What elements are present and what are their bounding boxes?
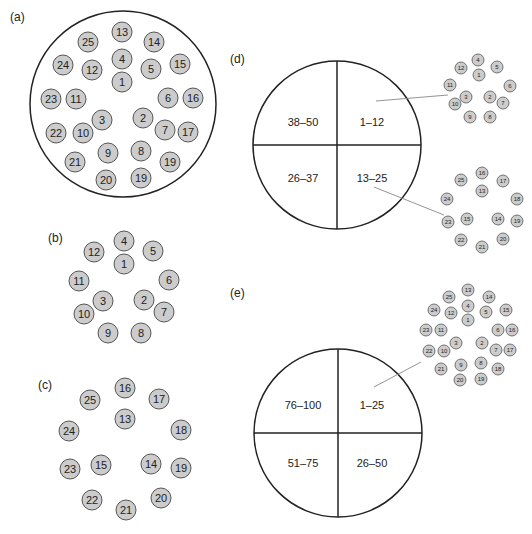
- numbered-item-circle: 17: [149, 389, 169, 409]
- numbered-item-circle: 9: [98, 143, 118, 163]
- item-number: 13: [119, 413, 131, 425]
- numbered-item-circle: 3: [450, 337, 462, 349]
- numbered-item-circle: 8: [475, 357, 487, 369]
- item-number: 13: [116, 26, 128, 38]
- item-number: 17: [153, 393, 165, 405]
- item-number: 11: [70, 93, 81, 105]
- numbered-item-circle: 3: [93, 291, 113, 311]
- item-number: 8: [138, 327, 144, 339]
- numbered-item-circle: 20: [151, 488, 171, 508]
- numbered-item-circle: 4: [462, 300, 474, 312]
- numbered-item-circle: 20: [454, 374, 466, 386]
- numbered-item-circle: 25: [78, 32, 98, 52]
- numbered-item-circle: 22: [423, 345, 435, 357]
- item-number: 21: [120, 504, 132, 516]
- item-number: 12: [448, 310, 455, 316]
- item-number: 17: [507, 347, 514, 353]
- quadrant-range-label: 13–25: [357, 172, 388, 184]
- item-number: 18: [514, 196, 521, 202]
- item-number: 2: [140, 112, 146, 124]
- item-number: 19: [175, 462, 187, 474]
- numbered-item-circle: 17: [497, 175, 509, 187]
- numbered-item-circle: 17: [504, 344, 516, 356]
- item-number: 19: [164, 156, 176, 168]
- item-number: 15: [464, 216, 471, 222]
- numbered-item-circle: 16: [183, 88, 203, 108]
- item-cluster: 412511163210798: [444, 54, 516, 123]
- item-number: 21: [69, 156, 81, 168]
- item-number: 14: [486, 294, 493, 300]
- numbered-item-circle: 1: [473, 69, 485, 81]
- numbered-item-circle: 16: [506, 324, 518, 336]
- numbered-item-circle: 14: [483, 291, 495, 303]
- item-number: 22: [50, 127, 62, 139]
- numbered-item-circle: 15: [461, 213, 473, 225]
- numbered-item-circle: 6: [159, 270, 179, 290]
- item-number: 25: [82, 36, 94, 48]
- numbered-item-circle: 9: [464, 111, 476, 123]
- item-number: 8: [138, 145, 144, 157]
- item-number: 22: [86, 494, 98, 506]
- item-number: 11: [73, 275, 84, 287]
- item-cluster: 1325144241251512311616322210717219818201…: [420, 284, 518, 386]
- numbered-item-circle: 3: [460, 91, 472, 103]
- item-number: 16: [119, 382, 131, 394]
- numbered-item-circle: 13: [462, 284, 474, 296]
- item-number: 15: [503, 307, 510, 313]
- numbered-item-circle: 22: [46, 123, 66, 143]
- item-number: 4: [119, 53, 125, 65]
- numbered-item-circle: 10: [73, 123, 93, 143]
- numbered-item-circle: 7: [154, 302, 174, 322]
- numbered-item-circle: 17: [178, 122, 198, 142]
- item-number: 16: [509, 327, 516, 333]
- numbered-item-circle: 21: [65, 152, 85, 172]
- numbered-item-circle: 4: [114, 231, 134, 251]
- item-number: 19: [478, 376, 485, 382]
- numbered-item-circle: 25: [80, 390, 100, 410]
- quadrant-range-label: 26–50: [357, 457, 388, 469]
- item-number: 21: [438, 366, 445, 372]
- numbered-item-circle: 6: [158, 88, 178, 108]
- item-number: 19: [514, 218, 521, 224]
- panel-d-pie-ranges-50: 38–501–1226–3713–25412511163210798162517…: [253, 54, 523, 253]
- numbered-item-circle: 21: [116, 500, 136, 520]
- item-number: 22: [458, 237, 465, 243]
- numbered-item-circle: 24: [428, 304, 440, 316]
- numbered-item-circle: 20: [497, 233, 509, 245]
- numbered-item-circle: 24: [59, 421, 79, 441]
- numbered-item-circle: 18: [492, 363, 504, 375]
- numbered-item-circle: 22: [455, 234, 467, 246]
- item-number: 13: [465, 287, 472, 293]
- item-number: 17: [500, 178, 507, 184]
- item-number: 1: [119, 76, 125, 88]
- numbered-item-circle: 21: [435, 363, 447, 375]
- numbered-item-circle: 1: [462, 314, 474, 326]
- item-number: 23: [423, 327, 430, 333]
- numbered-item-circle: 14: [144, 32, 164, 52]
- numbered-item-circle: 23: [60, 459, 80, 479]
- numbered-item-circle: 15: [91, 455, 111, 475]
- item-number: 9: [105, 327, 111, 339]
- numbered-item-circle: 2: [134, 290, 154, 310]
- numbered-item-circle: 11: [435, 324, 447, 336]
- item-number: 23: [64, 463, 76, 475]
- numbered-item-circle: 25: [443, 291, 455, 303]
- quadrant-range-label: 26–37: [288, 172, 319, 184]
- numbered-item-circle: 22: [82, 490, 102, 510]
- item-number: 14: [495, 216, 502, 222]
- numbered-item-circle: 14: [141, 454, 161, 474]
- item-number: 6: [165, 92, 171, 104]
- quadrant-range-label: 76–100: [285, 399, 322, 411]
- panel-e-pie-ranges-100: 76–1001–2551–7526–5013251442412515123116…: [254, 284, 518, 517]
- numbered-item-circle: 10: [438, 345, 450, 357]
- item-number: 15: [174, 58, 186, 70]
- item-number: 10: [77, 127, 89, 139]
- quadrant-range-label: 51–75: [288, 457, 319, 469]
- numbered-item-circle: 16: [476, 167, 488, 179]
- connector-line: [374, 187, 444, 215]
- item-number: 20: [155, 492, 167, 504]
- numbered-item-circle: 19: [171, 458, 191, 478]
- item-number: 20: [500, 236, 507, 242]
- numbered-item-circle: 25: [455, 174, 467, 186]
- numbered-item-circle: 12: [84, 242, 104, 262]
